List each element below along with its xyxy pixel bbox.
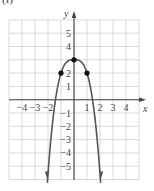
y-tick-label: −5 (60, 161, 71, 172)
x-axis-label: x (142, 103, 148, 114)
y-tick-label: 2 (66, 68, 71, 79)
axes: x y (9, 8, 148, 180)
y-tick-label: −1 (60, 108, 71, 119)
graph-figure: (f) x y −4−3−21234 5421−1−2−3−4−5 (0, 0, 154, 191)
y-tick-label: −4 (60, 147, 71, 158)
y-tick-label: 4 (66, 41, 71, 52)
data-point (58, 71, 63, 76)
x-tick-label: 2 (98, 102, 103, 113)
x-tick-label: 3 (111, 102, 116, 113)
y-axis-arrow-icon (72, 11, 77, 18)
x-tick-label: −2 (43, 102, 54, 113)
data-point (71, 57, 76, 62)
y-tick-label: −3 (60, 134, 71, 145)
y-tick-label: −2 (60, 121, 71, 132)
y-tick-label: 5 (66, 28, 71, 39)
panel-label: (f) (2, 0, 13, 5)
x-tick-labels: −4−3−21234 (17, 102, 129, 113)
x-axis-arrow-icon (139, 97, 146, 102)
x-tick-label: −3 (30, 102, 41, 113)
graph-svg: x y −4−3−21234 5421−1−2−3−4−5 (0, 0, 154, 191)
y-tick-label: 1 (66, 81, 71, 92)
x-tick-label: 1 (85, 102, 90, 113)
y-axis-label: y (63, 8, 69, 19)
data-point (84, 71, 89, 76)
x-tick-label: 4 (124, 102, 129, 113)
x-tick-label: −4 (17, 102, 28, 113)
